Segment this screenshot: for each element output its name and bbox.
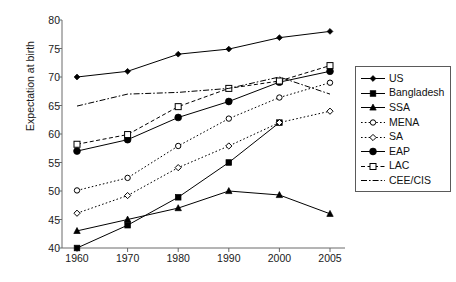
- legend-item-cee-cis[interactable]: CEE/CIS: [360, 173, 444, 187]
- chart-legend: USBangladeshSSAMENASAEAPLACCEE/CIS: [355, 66, 451, 192]
- legend-label: MENA: [386, 116, 419, 128]
- legend-item-eap[interactable]: EAP: [360, 144, 444, 158]
- series-eap: [74, 68, 334, 155]
- series-cee-cis: [77, 77, 330, 106]
- legend-label: SSA: [386, 101, 410, 113]
- legend-item-bangladesh[interactable]: Bangladesh: [360, 86, 444, 100]
- legend-marker-icon: [360, 71, 386, 84]
- series-bangladesh: [74, 120, 282, 251]
- legend-marker-icon: [360, 100, 386, 113]
- legend-marker-icon: [360, 86, 386, 99]
- legend-label: LAC: [386, 159, 409, 171]
- legend-item-mena[interactable]: MENA: [360, 115, 444, 129]
- line-chart: Expectation at birth 404550556065707580 …: [0, 0, 456, 282]
- legend-marker-icon: [360, 130, 386, 143]
- legend-marker-icon: [360, 115, 386, 128]
- legend-marker-icon: [360, 159, 386, 172]
- series-ssa: [74, 188, 333, 234]
- series-mena: [74, 80, 332, 193]
- legend-label: CEE/CIS: [386, 174, 431, 186]
- legend-label: US: [386, 72, 404, 84]
- legend-label: EAP: [386, 145, 410, 157]
- legend-item-lac[interactable]: LAC: [360, 159, 444, 173]
- legend-marker-icon: [360, 173, 386, 186]
- series-lac: [74, 63, 333, 148]
- legend-item-us[interactable]: US: [360, 71, 444, 85]
- legend-item-ssa[interactable]: SSA: [360, 100, 444, 114]
- series-us: [74, 29, 333, 80]
- legend-item-sa[interactable]: SA: [360, 129, 444, 143]
- legend-label: Bangladesh: [386, 86, 444, 98]
- legend-marker-icon: [360, 144, 386, 157]
- legend-label: SA: [386, 130, 403, 142]
